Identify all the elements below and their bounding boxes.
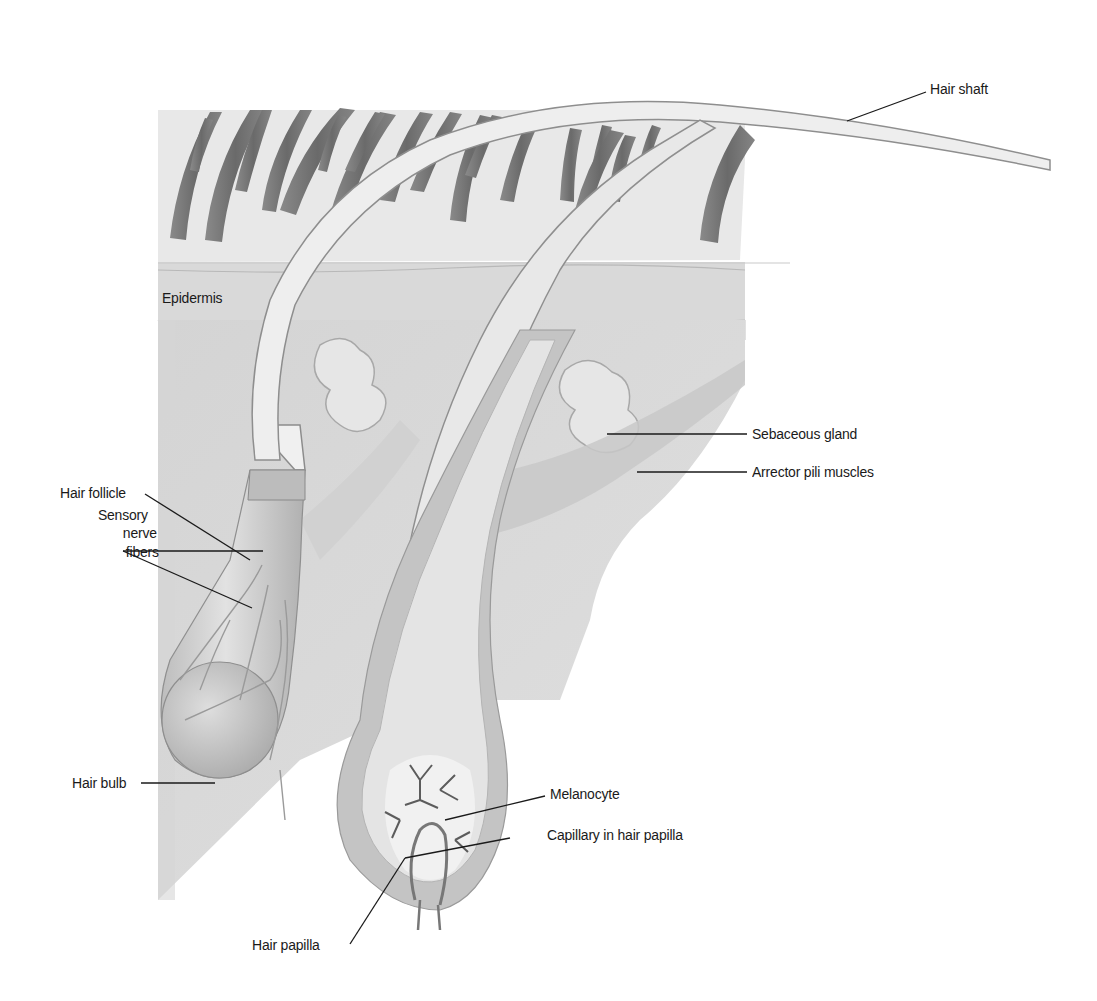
label-arrector-pili-muscles: Arrector pili muscles (752, 463, 874, 481)
label-capillary-in-hair-papilla: Capillary in hair papilla (547, 826, 683, 844)
label-sensory-line2: nerve (83, 524, 157, 542)
label-sensory-nerve-fibers: Sensory nerve fibers (40, 506, 122, 561)
label-hair-bulb: Hair bulb (72, 774, 126, 792)
label-hair-papilla: Hair papilla (252, 936, 320, 954)
label-sebaceous-gland: Sebaceous gland (752, 425, 857, 443)
label-melanocyte: Melanocyte (550, 785, 620, 803)
label-hair-shaft: Hair shaft (930, 80, 988, 98)
label-epidermis: Epidermis (162, 289, 222, 307)
label-sensory-line3: fibers (85, 543, 159, 561)
hair-follicle-diagram (0, 0, 1097, 1001)
label-sensory-line1: Sensory (74, 506, 148, 524)
label-hair-follicle: Hair follicle (60, 484, 126, 502)
